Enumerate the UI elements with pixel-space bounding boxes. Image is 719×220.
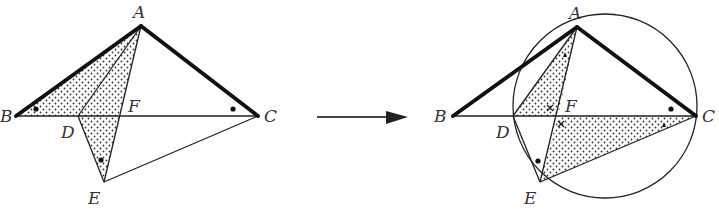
label-f: F bbox=[564, 96, 578, 116]
line-ac bbox=[577, 27, 696, 116]
geometry-diagram: A B C D E F bbox=[0, 0, 719, 220]
line-ec bbox=[104, 116, 258, 182]
dot-marker-e bbox=[535, 158, 540, 163]
arrow-right-icon bbox=[317, 111, 408, 124]
dot-marker-b bbox=[33, 106, 38, 111]
label-d: D bbox=[60, 122, 75, 142]
line-ac bbox=[141, 26, 258, 116]
label-b: B bbox=[0, 106, 13, 126]
label-b: B bbox=[433, 106, 447, 126]
label-c: C bbox=[264, 106, 277, 126]
dot-marker-c bbox=[668, 106, 673, 111]
line-de bbox=[513, 116, 540, 182]
label-e: E bbox=[523, 188, 537, 208]
label-e: E bbox=[87, 188, 101, 208]
label-a: A bbox=[131, 2, 145, 22]
dot-marker-c bbox=[230, 106, 235, 111]
right-figure: A B C D E F bbox=[433, 3, 715, 208]
left-figure: A B C D E F bbox=[0, 2, 277, 208]
label-a: A bbox=[567, 3, 581, 23]
dot-marker-e bbox=[98, 157, 103, 162]
label-d: D bbox=[495, 122, 510, 142]
label-f: F bbox=[127, 96, 141, 116]
label-c: C bbox=[702, 106, 715, 126]
